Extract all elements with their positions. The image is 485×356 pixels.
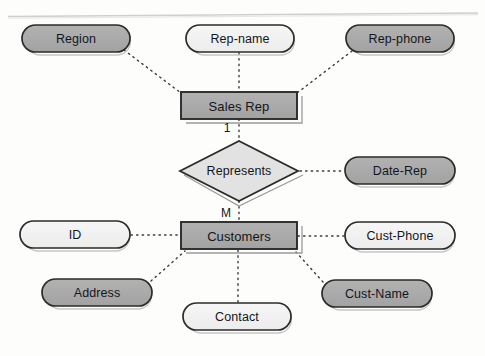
er-diagram-canvas: Region Rep-name Rep-phone Sales Rep 1 Re… xyxy=(0,0,485,356)
cust-name-node-hit[interactable] xyxy=(322,280,432,307)
contact-node-hit[interactable] xyxy=(183,303,291,330)
date-rep-node-hit[interactable] xyxy=(345,157,455,184)
customers-node-hit[interactable] xyxy=(181,222,297,249)
connector-custname-customers xyxy=(296,252,323,282)
connector-repphone-salesrep xyxy=(297,51,352,93)
connector-region-salesrep xyxy=(124,50,181,93)
connector-address-customers xyxy=(151,251,185,281)
sales-rep-node-hit[interactable] xyxy=(181,92,297,119)
id-node-hit[interactable] xyxy=(20,221,130,248)
rep-phone-node-hit[interactable] xyxy=(346,25,454,52)
rep-name-node-hit[interactable] xyxy=(186,25,294,52)
address-node-hit[interactable] xyxy=(42,279,152,306)
cust-phone-node-hit[interactable] xyxy=(345,222,455,249)
page-edge-line xyxy=(8,13,478,18)
represents-node-hit[interactable] xyxy=(180,141,298,201)
region-node-hit[interactable] xyxy=(22,25,130,52)
